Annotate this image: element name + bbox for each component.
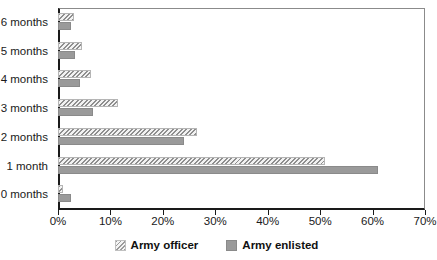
bar-army-officer <box>58 185 63 193</box>
x-axis-tick-label: 20% <box>151 215 174 227</box>
bar-row <box>58 94 425 123</box>
bar-army-officer <box>58 157 325 165</box>
solid-swatch-icon <box>226 240 237 251</box>
legend-item-army-enlisted: Army enlisted <box>226 239 318 251</box>
legend-label-army-enlisted: Army enlisted <box>242 239 318 251</box>
bar-army-officer <box>58 13 74 21</box>
bar-row <box>58 123 425 152</box>
bar-army-enlisted <box>58 51 75 59</box>
bar-army-enlisted <box>58 108 93 116</box>
legend-label-army-officer: Army officer <box>131 239 199 251</box>
bar-army-officer <box>58 99 118 107</box>
x-axis-tick-label: 0% <box>50 215 67 227</box>
y-axis-label: 0 months <box>1 180 48 209</box>
bar-row <box>58 152 425 181</box>
chart-legend: Army officer Army enlisted <box>0 236 433 254</box>
bar-army-enlisted <box>58 137 184 145</box>
bar-army-enlisted <box>58 22 71 30</box>
y-axis-label: 5 months <box>1 37 48 66</box>
bar-army-enlisted <box>58 194 71 202</box>
x-axis-tick-label: 10% <box>99 215 122 227</box>
bar-row <box>58 65 425 94</box>
x-axis-tick-label: 50% <box>309 215 332 227</box>
legend-item-army-officer: Army officer <box>115 239 199 251</box>
x-axis-tick-label: 60% <box>361 215 384 227</box>
bar-army-officer <box>58 128 197 136</box>
bar-army-officer <box>58 70 91 78</box>
bar-rows <box>58 8 425 209</box>
y-axis-label: 1 month <box>6 152 48 181</box>
x-axis-labels: 0%10%20%30%40%50%60%70% <box>0 215 433 231</box>
bar-army-officer <box>58 42 82 50</box>
bar-row <box>58 180 425 209</box>
x-axis-tick-label: 30% <box>204 215 227 227</box>
y-axis-label: 3 months <box>1 94 48 123</box>
bar-row <box>58 8 425 37</box>
bar-army-enlisted <box>58 79 80 87</box>
hatched-swatch-icon <box>115 240 126 251</box>
x-axis-tick-label: 70% <box>413 215 436 227</box>
x-axis-tick-label: 40% <box>256 215 279 227</box>
bar-army-enlisted <box>58 166 378 174</box>
y-axis-label: 2 months <box>1 123 48 152</box>
y-axis-label: 4 months <box>1 65 48 94</box>
y-axis-label: 6 months <box>1 8 48 37</box>
y-axis-labels: 6 months5 months4 months3 months2 months… <box>0 8 54 209</box>
bar-row <box>58 37 425 66</box>
